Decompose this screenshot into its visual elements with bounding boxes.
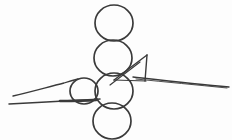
triangle-flag-left-edge (114, 55, 147, 80)
circle-top (95, 5, 133, 41)
right-long-taper-line (133, 77, 229, 87)
circle-second (94, 40, 132, 76)
sketch-drawing (0, 0, 232, 140)
left-upper-taper-line (13, 79, 78, 96)
right-long-taper-line-under (136, 79, 227, 88)
triangle-flag-right-edge (145, 55, 147, 81)
left-lower-thick-accent (60, 100, 96, 101)
sketch-canvas (0, 0, 232, 140)
